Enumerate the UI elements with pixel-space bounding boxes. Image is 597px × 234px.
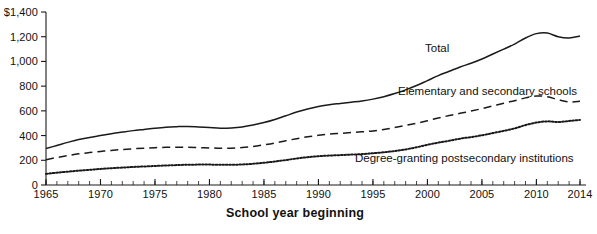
y-tick-label: 200: [0, 155, 38, 166]
x-tick-label: 1975: [133, 189, 177, 200]
x-tick-label: 2014: [558, 189, 597, 200]
series-label-degree-granting: Degree-granting postsecondary institutio…: [355, 152, 574, 164]
x-axis-title: School year beginning: [0, 206, 590, 220]
x-tick-label: 1995: [351, 189, 395, 200]
x-tick-label: 2000: [405, 189, 449, 200]
series-label-total: Total: [425, 42, 449, 54]
y-axis-ticks: [41, 12, 46, 185]
x-tick-label: 2010: [514, 189, 558, 200]
y-tick-label: 800: [0, 81, 38, 92]
series-line-degree-granting: [46, 120, 580, 174]
y-tick-label: 400: [0, 131, 38, 142]
series-line-elementary-secondary: [46, 96, 580, 160]
x-axis-major-ticks: [46, 179, 580, 185]
x-tick-label: 1965: [24, 189, 68, 200]
y-tick-label: 1,200: [0, 32, 38, 43]
y-tick-label: 1,000: [0, 56, 38, 67]
y-tick-label: $1,400: [0, 7, 38, 18]
x-tick-label: 1980: [187, 189, 231, 200]
x-tick-label: 1970: [78, 189, 122, 200]
x-tick-label: 1990: [296, 189, 340, 200]
x-tick-label: 1985: [242, 189, 286, 200]
x-axis-minor-ticks: [46, 181, 580, 185]
y-tick-label: 600: [0, 106, 38, 117]
series-label-elementary-secondary: Elementary and secondary schools: [398, 85, 577, 97]
x-tick-label: 2005: [460, 189, 504, 200]
